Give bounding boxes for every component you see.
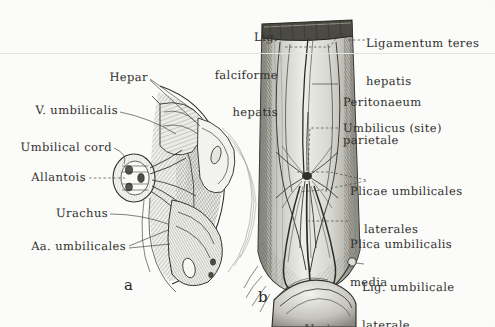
label-lig-falciforme-hepatis: Lig. falciforme hepatis xyxy=(178,6,278,144)
label-line: Vesica xyxy=(288,323,362,327)
label-line: falciforme xyxy=(178,69,278,82)
label-line: Peritonaeum xyxy=(343,96,469,109)
label-umbilical-cord: Umbilical cord xyxy=(8,141,112,154)
label-v-umbilicalis: V. umbilicalis xyxy=(24,104,118,117)
label-aa-umbilicales: Aa. umbilicales xyxy=(16,240,126,253)
label-vesica-urinaria: Vesica urinaria xyxy=(288,298,362,327)
label-line: Lig. umbilicale xyxy=(362,281,494,294)
label-line: Plica umbilicalis xyxy=(350,238,495,251)
figure-letter-b: b xyxy=(258,288,268,306)
label-urachus: Urachus xyxy=(42,207,108,220)
label-line: parietale xyxy=(343,134,443,147)
label-hepar: Hepar xyxy=(64,71,148,84)
label-line: hepatis xyxy=(178,106,278,119)
label-line: laterale xyxy=(362,319,480,327)
figure-letter-a: a xyxy=(124,276,133,294)
label-line: Ligamentum teres xyxy=(366,37,492,50)
label-line: Lig. xyxy=(178,31,278,44)
label-line: Plicae umbilicales xyxy=(350,185,495,198)
label-lig-umbilicale-laterale: Lig. umbilicale laterale xyxy=(362,256,494,327)
anatomical-plate: Lig. falciforme hepatis Ligamentum teres… xyxy=(0,0,495,327)
label-allantois: Allantois xyxy=(20,171,86,184)
label-umbilicus-site: Umbilicus (site) xyxy=(343,122,489,135)
